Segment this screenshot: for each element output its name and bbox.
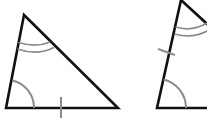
- triangle-2-side-tick-marker: [158, 49, 175, 55]
- triangle-1-double-arc-outer: [18, 48, 55, 53]
- triangle-1-double-arc-inner: [19, 42, 51, 45]
- triangle-1-outline: [6, 15, 118, 108]
- triangle-2: [157, 0, 207, 108]
- triangle-1: [6, 15, 118, 118]
- triangle-diagram: [0, 0, 207, 129]
- triangle-1-single-arc-angle-marker: [13, 81, 35, 109]
- triangle-2-double-arc-inner: [176, 23, 208, 29]
- triangle-2-single-arc-angle-marker: [164, 80, 187, 109]
- triangle-2-double-arc-outer: [175, 31, 208, 36]
